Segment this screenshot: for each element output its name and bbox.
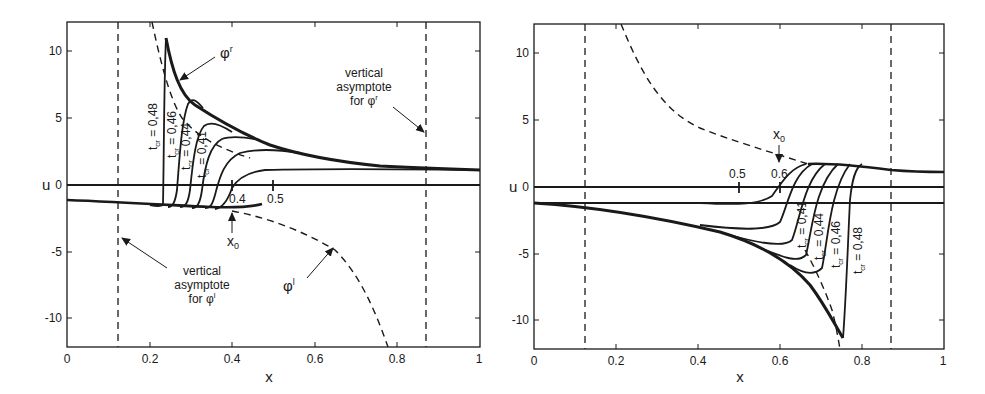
svg-text:for φl: for φl — [189, 291, 216, 306]
right-x-tick-labels: 0 0.2 0.4 0.6 0.8 1 — [531, 354, 947, 368]
left-panel: 10 5 0 -5 -10 0 0.2 0.4 0.6 0.8 1 u x 0.… — [42, 22, 483, 385]
ytick-label: -10 — [512, 313, 530, 327]
xtick-label: 0 — [531, 354, 538, 368]
solution-curves — [150, 38, 480, 209]
ytick-label: -5 — [51, 245, 62, 259]
xtick-label: 0.6 — [307, 352, 324, 366]
xtick-label: 0.6 — [772, 354, 789, 368]
tcr-label: tcr = 0,41 — [195, 131, 211, 178]
asymptote-l-annotation: vertical asymptote for φl — [174, 264, 230, 306]
curve-tcr-035 — [700, 164, 806, 204]
phi-r-label: φr — [220, 44, 233, 61]
asymptote-l-arrow — [122, 238, 167, 268]
ytick-label: 10 — [516, 46, 530, 60]
svg-text:asymptote: asymptote — [336, 80, 392, 94]
ytick-label: 5 — [55, 111, 62, 125]
left-y-axis-label: u — [42, 176, 50, 193]
tcr-label: tcr = 0,48 — [851, 227, 867, 274]
inline-tick-label: 0.4 — [229, 192, 246, 206]
phi-l-label: φl — [283, 277, 295, 294]
ytick-label: 5 — [522, 113, 529, 127]
svg-text:for φr: for φr — [350, 93, 378, 108]
phi-l-arrow — [307, 248, 333, 278]
figure: 10 5 0 -5 -10 0 0.2 0.4 0.6 0.8 1 u x 0.… — [0, 0, 985, 394]
svg-text:vertical: vertical — [345, 66, 383, 80]
ytick-label: -10 — [45, 311, 63, 325]
tcr-label: tcr = 0,48 — [146, 103, 162, 150]
asymptote-r-annotation: vertical asymptote for φr — [336, 66, 392, 108]
left-x-axis-label: x — [265, 368, 273, 385]
ytick-label: 0 — [522, 180, 529, 194]
curve-tcr-035 — [215, 169, 480, 209]
ytick-label: 0 — [55, 178, 62, 192]
xtick-label: 1 — [940, 354, 947, 368]
xtick-label: 0.8 — [389, 352, 406, 366]
svg-text:vertical: vertical — [183, 264, 221, 278]
ytick-label: -5 — [518, 247, 529, 261]
upper-plateau — [808, 164, 944, 172]
right-x-axis-label: x — [736, 368, 744, 385]
tcr-label: tcr = 0,44 — [179, 123, 195, 170]
x0-label: x0 — [773, 126, 785, 144]
tcr-label: tcr = 0,44 — [812, 213, 828, 260]
right-panel: 10 5 0 -5 -10 0 0.2 0.4 0.6 0.8 1 u x 0.… — [509, 24, 947, 385]
figure-svg: 10 5 0 -5 -10 0 0.2 0.4 0.6 0.8 1 u x 0.… — [0, 0, 985, 394]
xtick-label: 0.2 — [142, 352, 159, 366]
asymptote-r-arrow — [393, 107, 424, 132]
xtick-label: 0.2 — [608, 354, 625, 368]
inline-tick-label: 0.5 — [729, 167, 746, 181]
x0-label: x0 — [227, 233, 239, 251]
phi-l-dashed — [232, 211, 388, 347]
left-tcr-labels: tcr = 0,48 tcr = 0,46 tcr = 0,44 tcr = 0… — [146, 103, 211, 178]
svg-text:asymptote: asymptote — [174, 278, 230, 292]
xtick-label: 1 — [476, 352, 483, 366]
curve-tcr-038 — [205, 150, 300, 208]
ytick-label: 10 — [49, 44, 63, 58]
phi-r-arrow — [180, 57, 215, 80]
xtick-label: 0.4 — [224, 352, 241, 366]
inline-tick-label: 0.5 — [267, 192, 284, 206]
tcr-label: tcr = 0,41 — [795, 201, 811, 248]
left-x-tick-labels: 0 0.2 0.4 0.6 0.8 1 — [64, 352, 483, 366]
xtick-label: 0.8 — [854, 354, 871, 368]
xtick-label: 0.4 — [690, 354, 707, 368]
right-y-axis-label: u — [509, 178, 517, 195]
xtick-label: 0 — [64, 352, 71, 366]
tcr-label: tcr = 0,46 — [829, 221, 845, 268]
